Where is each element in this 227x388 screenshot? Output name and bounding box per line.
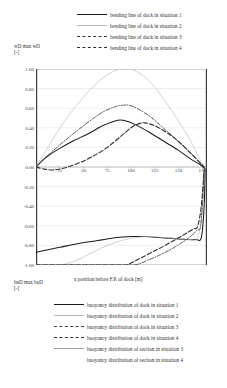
y-tick-label-8: -0.60 — [24, 223, 34, 228]
plot-canvas: 1.000.800.600.400.200.00-0.20-0.40-0.60-… — [36, 69, 207, 265]
series-line-3 — [36, 105, 204, 167]
legend-bottom-key-1-icon — [54, 300, 84, 309]
legend-bottom-label-3: buoyancy distribution of dock in situati… — [87, 324, 178, 330]
legend-top-key-2-icon — [77, 21, 107, 30]
y-axis-title-bottom: buD max buD [-] — [14, 279, 43, 292]
legend-bottom-key-2-icon — [54, 311, 84, 320]
plot-area: 1.000.800.600.400.200.00-0.20-0.40-0.60-… — [14, 66, 214, 274]
y-tick-label-7: -0.40 — [24, 204, 34, 209]
legend-bottom-key-3-icon — [54, 322, 84, 331]
legend-top-item-1[interactable]: bending line of dock in situation 1 — [77, 9, 182, 20]
x-tick-label-5: 150 — [175, 168, 183, 173]
legend-bottom-label-6: buoyancy distribution of section in situ… — [87, 357, 183, 363]
x-tick-label-6: 175 — [199, 168, 207, 173]
legend-top-label-2: bending line of dock in situation 2 — [110, 23, 182, 29]
legend-bottom-label-2: buoyancy distribution of dock in situati… — [87, 313, 178, 319]
legend-top-item-3[interactable]: bending line of dock in situation 3 — [77, 31, 182, 42]
x-axis-title: x position before F.P. of dock [m] — [74, 276, 142, 282]
legend-bottom-item-1[interactable]: buoyancy distribution of dock in situati… — [54, 299, 183, 310]
legend-bottom-item-4[interactable]: buoyancy distribution of dock in situati… — [54, 332, 183, 343]
x-tick-label-4: 125 — [151, 168, 159, 173]
legend-top-key-3-icon — [77, 32, 107, 41]
legend-top-label-3: bending line of dock in situation 3 — [110, 34, 182, 40]
legend-bottom-key-4-icon — [54, 333, 84, 342]
series-line-7 — [36, 170, 204, 265]
y-tick-label-5: 0.00 — [25, 165, 34, 170]
legend-bottom-key-6-icon — [54, 355, 84, 364]
x-tick-label-3: 100 — [127, 168, 135, 173]
series-line-8 — [36, 170, 204, 265]
series-line-6 — [36, 170, 204, 265]
legend-bottom-label-5: buoyancy distribution of section in situ… — [87, 346, 183, 352]
legend-top-item-2[interactable]: bending line of dock in situation 2 — [77, 20, 182, 31]
legend-bottom-item-6[interactable]: buoyancy distribution of section in situ… — [54, 354, 183, 365]
series-line-5 — [36, 170, 205, 252]
legend-bending-lines: bending line of dock in situation 1bendi… — [77, 9, 182, 53]
y-tick-label-6: -0.20 — [24, 184, 34, 189]
legend-top-label-1: bending line of dock in situation 1 — [110, 12, 182, 18]
chart-figure: bending line of dock in situation 1bendi… — [0, 0, 227, 388]
y-tick-label-0: 1.00 — [25, 67, 34, 72]
y-axis-title-top: wD max wD [-] — [14, 43, 40, 56]
legend-top-item-4[interactable]: bending line of dock in situation 4 — [77, 42, 182, 53]
legend-top-key-4-icon — [77, 43, 107, 52]
legend-bottom-key-5-icon — [54, 344, 84, 353]
legend-bottom-item-3[interactable]: buoyancy distribution of dock in situati… — [54, 321, 183, 332]
series-line-1 — [36, 120, 205, 169]
y-tick-label-2: 0.60 — [25, 106, 34, 111]
y-tick-label-4: 0.20 — [25, 145, 34, 150]
series-line-4 — [36, 123, 204, 170]
y-tick-label-3: 0.40 — [25, 125, 34, 130]
y-tick-label-1: 0.80 — [25, 86, 34, 91]
x-tick-label-2: 75 — [105, 168, 110, 173]
legend-bottom-item-5[interactable]: buoyancy distribution of section in situ… — [54, 343, 183, 354]
legend-bottom-item-2[interactable]: buoyancy distribution of dock in situati… — [54, 310, 183, 321]
chart-svg — [36, 69, 207, 265]
x-tick-label-1: 50 — [81, 168, 86, 173]
legend-top-label-4: bending line of dock in situation 4 — [110, 45, 182, 51]
legend-top-key-1-icon — [77, 10, 107, 19]
y-tick-label-10: -1.00 — [24, 263, 34, 268]
series-line-2 — [36, 69, 204, 167]
legend-buoyancy-distributions: buoyancy distribution of dock in situati… — [54, 299, 183, 365]
legend-bottom-label-4: buoyancy distribution of dock in situati… — [87, 335, 178, 341]
y-axis-title-top-unit: [-] — [14, 49, 40, 55]
legend-bottom-label-1: buoyancy distribution of dock in situati… — [87, 302, 178, 308]
y-tick-label-9: -0.80 — [24, 243, 34, 248]
x-tick-label-0: 25 — [57, 168, 62, 173]
y-axis-title-bottom-unit: [-] — [14, 285, 43, 291]
